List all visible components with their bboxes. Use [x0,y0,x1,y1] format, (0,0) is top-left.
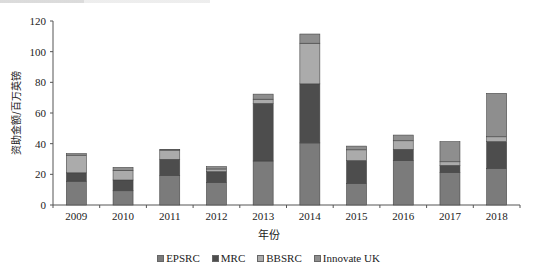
legend-label: Innovate UK [323,252,380,264]
bar-segment-epsrc [300,143,320,205]
x-tick-label: 2010 [112,210,135,222]
bar-segment-bbsrc [160,150,180,159]
x-tick-label: 2009 [65,210,88,222]
x-tick-label: 2012 [205,210,227,222]
bar-segment-mrc [393,149,413,160]
bar-segment-mrc [440,165,460,172]
bar-segment-innovate-uk [300,34,320,43]
bar-segment-innovate-uk [206,167,226,169]
legend-label: BBSRC [266,252,301,264]
bar-segment-innovate-uk [393,135,413,141]
bar-segment-epsrc [253,161,273,205]
bar-segment-epsrc [347,183,367,205]
x-tick-label: 2017 [439,210,462,222]
bar-segment-mrc [300,84,320,143]
legend-swatch-icon [257,255,264,262]
y-tick-label: 80 [35,76,47,88]
bar-segment-mrc [206,172,226,183]
bar-segment-innovate-uk [113,167,133,170]
legend-swatch-icon [314,255,321,262]
y-tick-label: 100 [30,46,47,58]
legend-item: MRC [212,252,245,264]
y-tick-label: 40 [35,138,47,150]
bar-segment-bbsrc [393,141,413,150]
bar-segment-innovate-uk [347,146,367,150]
bar-segment-innovate-uk [160,149,180,150]
legend-label: EPSRC [166,252,200,264]
bar-segment-innovate-uk [253,94,273,99]
bar-segment-epsrc [206,182,226,205]
bar-segment-mrc [66,173,86,181]
bar-segment-innovate-uk [440,142,460,162]
bar-segment-bbsrc [206,169,226,172]
stacked-bar-chart: 0204060801001202009201020112012201320142… [0,0,537,250]
bar-segment-epsrc [66,181,86,205]
bar-segment-bbsrc [300,43,320,84]
x-axis-label: 年份 [0,226,537,242]
x-tick-label: 2013 [252,210,275,222]
bar-segment-bbsrc [487,137,507,142]
bar-segment-mrc [113,180,133,191]
bar-segment-epsrc [113,191,133,205]
bar-segment-bbsrc [66,155,86,173]
bar-segment-epsrc [393,161,413,205]
bar-segment-bbsrc [253,99,273,103]
y-axis-label: 资助金额/百万英镑 [8,71,23,154]
bar-segment-epsrc [487,168,507,205]
legend-label: MRC [221,252,245,264]
x-tick-label: 2015 [346,210,369,222]
bar-segment-bbsrc [113,170,133,180]
y-tick-label: 20 [35,168,47,180]
y-tick-label: 0 [41,199,47,211]
y-tick-label: 120 [30,15,47,27]
bar-segment-epsrc [160,176,180,205]
bar-segment-bbsrc [347,150,367,161]
legend-item: BBSRC [257,252,301,264]
chart-legend: EPSRCMRCBBSRCInnovate UK [0,252,537,264]
y-tick-label: 60 [35,107,47,119]
x-tick-label: 2014 [299,210,322,222]
legend-swatch-icon [212,255,219,262]
x-tick-label: 2016 [392,210,415,222]
legend-swatch-icon [157,255,164,262]
bar-segment-mrc [253,103,273,161]
legend-item: EPSRC [157,252,200,264]
bar-segment-bbsrc [440,162,460,166]
x-tick-label: 2018 [486,210,509,222]
bar-segment-mrc [487,142,507,169]
bar-segment-innovate-uk [66,154,86,156]
x-tick-label: 2011 [159,210,181,222]
bar-segment-epsrc [440,173,460,205]
bar-segment-innovate-uk [487,93,507,136]
bar-segment-mrc [347,161,367,184]
legend-item: Innovate UK [314,252,380,264]
bar-segment-mrc [160,159,180,175]
